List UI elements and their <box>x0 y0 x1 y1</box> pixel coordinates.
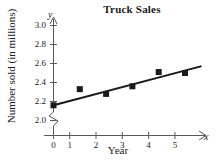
x-tick-label: 5 <box>168 141 182 150</box>
data-point-marker <box>156 69 162 75</box>
data-point-marker <box>129 83 135 89</box>
data-point-marker <box>77 86 83 92</box>
x-tick-label: 2 <box>89 141 103 150</box>
data-point-marker <box>103 91 109 97</box>
x-tick-label: 4 <box>142 141 156 150</box>
trend-line <box>54 66 201 105</box>
truck-sales-chart-figure: Truck Sales Number sold (in millions) Ye… <box>0 0 217 163</box>
y-tick-label: 2.2 <box>24 97 46 106</box>
data-point-marker <box>51 102 57 108</box>
y-axis-break-symbol <box>49 112 58 126</box>
x-tick-label: 3 <box>115 141 129 150</box>
x-tick-label: 0 <box>47 141 61 150</box>
data-point-marker <box>182 70 188 76</box>
y-tick-label: 2.4 <box>24 78 46 87</box>
y-tick-label: 2.8 <box>24 40 46 49</box>
axes-group <box>44 17 206 140</box>
y-tick-label: 3.0 <box>24 21 46 30</box>
x-tick-label: 1 <box>63 141 77 150</box>
y-tick-label: 2.6 <box>24 59 46 68</box>
y-tick-label: 2.0 <box>24 116 46 125</box>
